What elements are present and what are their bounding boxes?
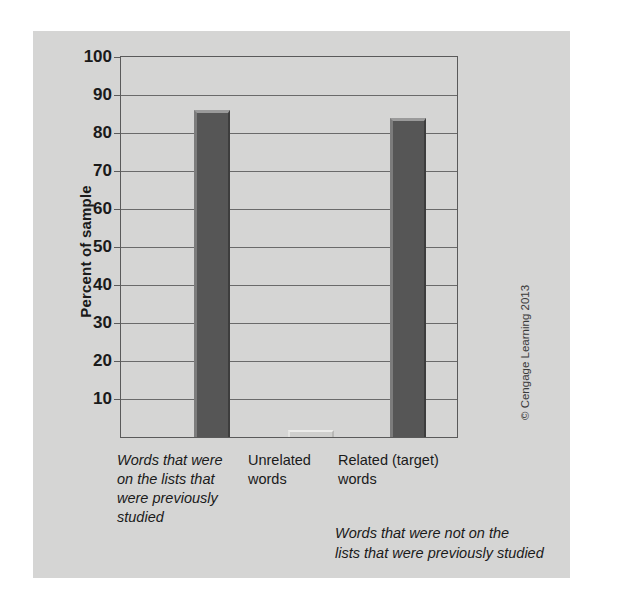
x-label-line: words bbox=[248, 470, 343, 489]
copyright-credit: © Cengage Learning 2013 bbox=[519, 260, 531, 420]
y-axis-tick-mark bbox=[114, 247, 121, 248]
plot-area: 102030405060708090100 bbox=[120, 56, 458, 438]
annotation-line: Words that were not on the bbox=[335, 523, 585, 543]
y-axis-tick-label: 100 bbox=[84, 47, 112, 67]
figure-container: Percent of sample 102030405060708090100 … bbox=[0, 0, 625, 606]
y-axis-tick-mark bbox=[114, 399, 121, 400]
bar-1 bbox=[194, 110, 230, 437]
y-axis-tick-mark bbox=[114, 171, 121, 172]
y-axis-tick-label: 90 bbox=[93, 85, 112, 105]
y-axis-tick-mark bbox=[114, 285, 121, 286]
annotation-caption: Words that were not on the lists that we… bbox=[335, 523, 585, 563]
bar-2 bbox=[288, 430, 334, 437]
y-axis-tick-mark bbox=[114, 95, 121, 96]
x-label-group-3: Related (target) words bbox=[338, 451, 463, 489]
x-label-line: Related (target) bbox=[338, 451, 463, 470]
y-axis-tick-mark bbox=[114, 361, 121, 362]
y-axis-tick-mark bbox=[114, 57, 121, 58]
y-axis-tick-label: 20 bbox=[93, 351, 112, 371]
x-axis-labels: Words that were on the lists that were p… bbox=[120, 451, 580, 581]
x-label-line: Unrelated bbox=[248, 451, 343, 470]
y-axis-tick-label: 80 bbox=[93, 123, 112, 143]
chart-panel: Percent of sample 102030405060708090100 … bbox=[33, 31, 570, 578]
y-axis-tick-label: 50 bbox=[93, 237, 112, 257]
y-axis-tick-label: 60 bbox=[93, 199, 112, 219]
bar-3 bbox=[390, 118, 426, 437]
y-axis-tick-label: 70 bbox=[93, 161, 112, 181]
x-label-group-1: Words that were on the lists that were p… bbox=[117, 451, 237, 527]
y-axis-tick-label: 10 bbox=[93, 389, 112, 409]
x-label-group-2: Unrelated words bbox=[248, 451, 343, 489]
y-axis-tick-mark bbox=[114, 133, 121, 134]
x-label-line: on the lists that bbox=[117, 470, 237, 489]
y-axis-tick-mark bbox=[114, 209, 121, 210]
y-axis-title: Percent of sample bbox=[77, 162, 94, 342]
x-label-line: Words that were bbox=[117, 451, 237, 470]
grid-line bbox=[121, 95, 457, 96]
y-axis-tick-label: 40 bbox=[93, 275, 112, 295]
x-label-line: words bbox=[338, 470, 463, 489]
y-axis-tick-mark bbox=[114, 323, 121, 324]
annotation-line: lists that were previously studied bbox=[335, 543, 585, 563]
x-label-line: were previously bbox=[117, 489, 237, 508]
y-axis-tick-label: 30 bbox=[93, 313, 112, 333]
x-label-line: studied bbox=[117, 508, 237, 527]
